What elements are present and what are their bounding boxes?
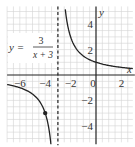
y-tick-label: 2 — [88, 44, 94, 56]
x-tick-label: 2 — [119, 77, 125, 89]
y-tick-label: 4 — [88, 18, 94, 30]
x-tick-label: −6 — [14, 77, 26, 89]
data-points — [43, 111, 47, 115]
x-tick-label: −2 — [65, 77, 77, 89]
y-tick-label: −4 — [81, 120, 93, 132]
x-axis-label: x — [126, 63, 132, 75]
data-point — [43, 111, 47, 115]
equation-numerator: 3 — [39, 35, 44, 46]
y-tick-label: −2 — [81, 94, 93, 106]
curve-right-branch — [65, 9, 133, 68]
equation-label: y = 3 x + 3 — [8, 33, 56, 63]
function-graph: −6−4−20242−2−4 x y y = 3 x + 3 — [0, 0, 135, 147]
x-tick-label: 0 — [90, 77, 96, 89]
equation-lhs: y = — [8, 41, 24, 53]
x-tick-label: −4 — [39, 77, 51, 89]
equation-denominator: x + 3 — [32, 50, 53, 60]
grid-lines — [7, 6, 133, 142]
y-axis-label: y — [98, 6, 104, 18]
